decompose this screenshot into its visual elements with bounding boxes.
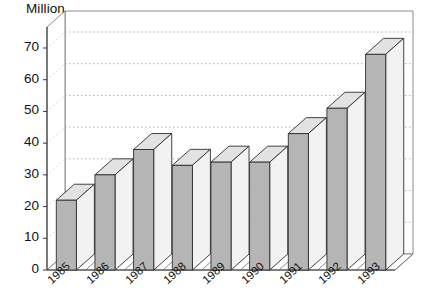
bar-front-face: [250, 162, 270, 270]
bar-1989[interactable]: [211, 146, 249, 270]
bar-1991[interactable]: [288, 118, 326, 270]
bar-side-face: [347, 92, 365, 270]
bar-front-face: [211, 162, 231, 270]
y-axis-label-60: 60: [9, 71, 39, 86]
bar-front-face: [172, 165, 192, 270]
plot-area: [0, 0, 446, 307]
y-axis-label-0: 0: [9, 261, 39, 276]
bar-side-face: [154, 133, 172, 270]
chart-canvas: [0, 0, 446, 307]
bar-side-face: [192, 149, 210, 270]
bar-1986[interactable]: [95, 159, 133, 270]
bar-1990[interactable]: [250, 146, 288, 270]
bar-side-face: [231, 146, 249, 270]
bar-front-face: [134, 149, 154, 270]
bar-side-face: [386, 38, 404, 270]
bar-side-face: [270, 146, 288, 270]
bar-1988[interactable]: [172, 149, 210, 270]
bar-front-face: [56, 200, 76, 270]
y-axis-label-40: 40: [9, 134, 39, 149]
y-axis-label-20: 20: [9, 198, 39, 213]
bar-side-face: [115, 159, 133, 270]
y-axis-label-30: 30: [9, 166, 39, 181]
bar-1987[interactable]: [134, 133, 172, 270]
bar-1992[interactable]: [327, 92, 365, 270]
bar-front-face: [95, 175, 115, 270]
bar-front-face: [366, 54, 386, 270]
bar-side-face: [308, 118, 326, 270]
y-axis-label-70: 70: [9, 39, 39, 54]
bar-1985[interactable]: [56, 184, 94, 270]
y-axis-label-50: 50: [9, 102, 39, 117]
bar-front-face: [288, 134, 308, 270]
bar-1993[interactable]: [366, 38, 404, 270]
chart-container: Million 706050403020100 1985198619871988…: [0, 0, 446, 307]
bar-front-face: [327, 108, 347, 270]
y-axis-label-10: 10: [9, 229, 39, 244]
